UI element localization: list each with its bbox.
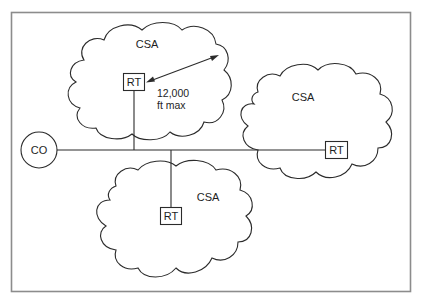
central-office-node: CO xyxy=(21,132,57,168)
csa-cloud-right xyxy=(241,64,392,179)
remote-terminal-top: RT xyxy=(124,74,145,91)
distance-label-line1: 12,000 xyxy=(157,87,189,99)
csa-network-diagram: CO RT RT RT CSA CSA CSA 12,000 ft max xyxy=(0,0,424,302)
rt-label-bottom: RT xyxy=(164,210,179,222)
csa-label-top: CSA xyxy=(136,38,159,50)
distance-label-line2: ft max xyxy=(157,99,186,111)
rt-label-top: RT xyxy=(127,76,142,88)
csa-label-right: CSA xyxy=(292,91,315,103)
remote-terminal-bottom: RT xyxy=(161,208,182,225)
rt-label-right: RT xyxy=(329,144,344,156)
central-office-label: CO xyxy=(31,144,48,156)
remote-terminal-right: RT xyxy=(326,142,348,159)
csa-label-bottom: CSA xyxy=(197,191,220,203)
